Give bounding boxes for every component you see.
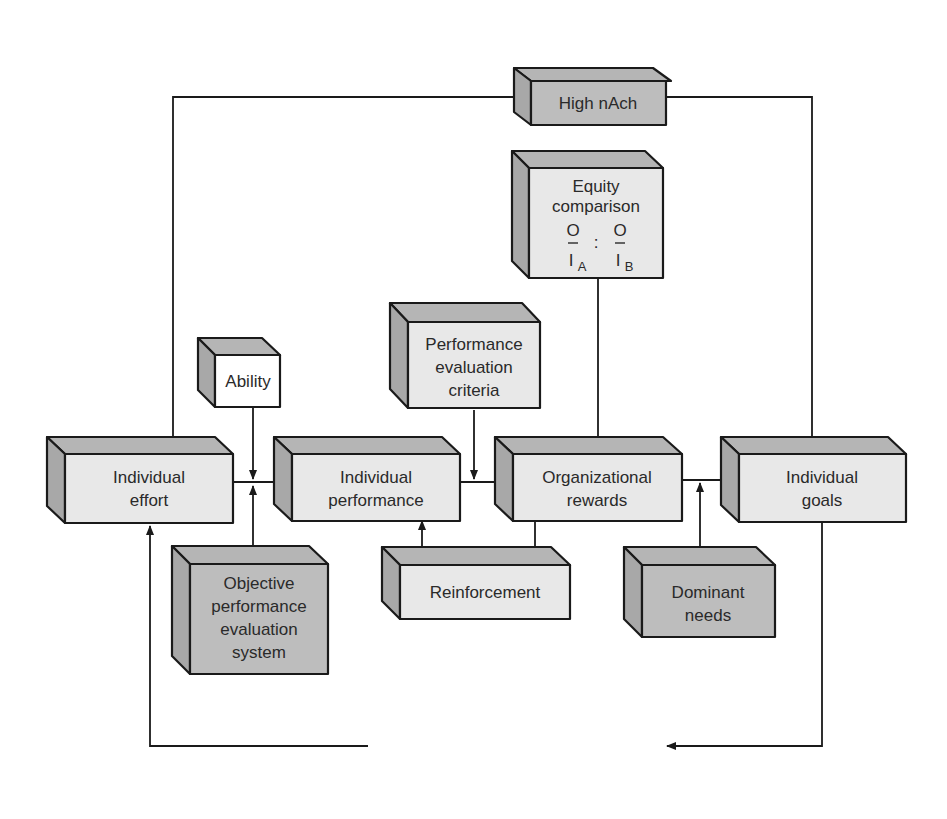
node-reinforcement: Reinforcement bbox=[382, 547, 570, 619]
label-objective-line3: evaluation bbox=[220, 620, 298, 639]
label-rewards-line2: rewards bbox=[567, 491, 627, 510]
formula-left-numerator: O bbox=[566, 221, 579, 240]
label-effort-line2: effort bbox=[130, 491, 169, 510]
formula-right-numerator: O bbox=[613, 221, 626, 240]
label-equity-line1: Equity bbox=[572, 177, 620, 196]
node-equity-comparison: Equity comparison O I A : O I B bbox=[512, 151, 663, 278]
node-individual-effort: Individual effort bbox=[47, 437, 233, 523]
node-ability: Ability bbox=[198, 338, 280, 407]
label-dominant-line2: needs bbox=[685, 606, 731, 625]
label-performance-line2: performance bbox=[328, 491, 423, 510]
node-high-nach: High nAch bbox=[514, 68, 671, 125]
formula-separator: : bbox=[594, 233, 599, 252]
formula-right-denominator: I bbox=[616, 251, 621, 270]
node-performance-evaluation-criteria: Performance evaluation criteria bbox=[390, 303, 540, 408]
label-goals-line2: goals bbox=[802, 491, 843, 510]
label-objective-line2: performance bbox=[211, 597, 306, 616]
label-reinforcement: Reinforcement bbox=[430, 583, 541, 602]
formula-left-denominator: I bbox=[569, 251, 574, 270]
motivation-model-diagram: High nAch Equity comparison O I A : O I … bbox=[0, 0, 947, 819]
label-goals-line1: Individual bbox=[786, 468, 858, 487]
label-dominant-line1: Dominant bbox=[672, 583, 745, 602]
edge-high-nach-to-goals bbox=[665, 97, 812, 462]
node-individual-performance: Individual performance bbox=[274, 437, 460, 521]
label-objective-line1: Objective bbox=[224, 574, 295, 593]
label-criteria-line3: criteria bbox=[448, 381, 500, 400]
formula-right-subscript: B bbox=[625, 259, 634, 274]
node-dominant-needs: Dominant needs bbox=[624, 547, 775, 637]
node-objective-performance-evaluation-system: Objective performance evaluation system bbox=[172, 546, 328, 674]
label-ability: Ability bbox=[225, 372, 271, 391]
label-objective-line4: system bbox=[232, 643, 286, 662]
label-equity-line2: comparison bbox=[552, 197, 640, 216]
label-rewards-line1: Organizational bbox=[542, 468, 652, 487]
label-criteria-line1: Performance bbox=[425, 335, 522, 354]
formula-left-subscript: A bbox=[578, 259, 587, 274]
node-organizational-rewards: Organizational rewards bbox=[495, 437, 682, 521]
label-performance-line1: Individual bbox=[340, 468, 412, 487]
label-effort-line1: Individual bbox=[113, 468, 185, 487]
node-individual-goals: Individual goals bbox=[721, 437, 906, 522]
label-high-nach: High nAch bbox=[559, 94, 637, 113]
label-criteria-line2: evaluation bbox=[435, 358, 513, 377]
